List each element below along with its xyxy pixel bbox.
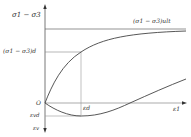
x-axis-label: ε1 [173,106,180,112]
strain-d-label: εd [83,105,90,111]
volumetric-curve [45,79,186,116]
diagram-root: σ1 − σ3 (σ1 − σ3)ult (σ1 − σ3)d O εd εvd… [0,0,191,137]
peak-label: (σ1 − σ3)d [3,48,36,54]
y-axis-arrow-icon [43,4,46,9]
origin-label: O [36,100,41,106]
ultimate-label: (σ1 − σ3)ult [133,18,171,24]
vol-d-label: εvd [30,113,40,119]
y-down-label: εv [33,126,39,132]
x-axis-arrow-icon [182,101,187,104]
y-down-arrow-icon [43,128,46,133]
stress-strain-curve [45,31,186,103]
y-axis-label: σ1 − σ3 [12,12,41,19]
